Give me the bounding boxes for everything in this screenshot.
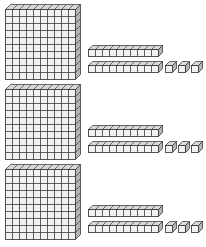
unit-cube-block[interactable] — [191, 221, 204, 234]
unit-cube-block[interactable] — [165, 61, 178, 74]
unit-cube-block[interactable] — [165, 141, 178, 154]
ten-rod-block[interactable] — [88, 45, 164, 58]
unit-cube-block[interactable] — [178, 141, 191, 154]
unit-cube-block[interactable] — [191, 141, 204, 154]
base-ten-blocks-canvas: Base-ten blocks place value model 123123… — [0, 0, 206, 247]
ten-rod-block[interactable] — [88, 61, 164, 74]
unit-cube-block[interactable] — [165, 221, 178, 234]
unit-cube-block[interactable] — [178, 221, 191, 234]
hundred-flat-block[interactable] — [5, 164, 82, 241]
ten-rod-block[interactable] — [88, 221, 164, 234]
hundred-flat-block[interactable] — [5, 4, 82, 81]
ten-rod-block[interactable] — [88, 141, 164, 154]
block-row: 123 — [0, 84, 206, 164]
unit-cube-block[interactable] — [191, 61, 204, 74]
ten-rod-block[interactable] — [88, 125, 164, 138]
block-row: 123 — [0, 164, 206, 244]
block-row: 123 — [0, 4, 206, 84]
ten-rod-block[interactable] — [88, 205, 164, 218]
unit-cube-block[interactable] — [178, 61, 191, 74]
hundred-flat-block[interactable] — [5, 84, 82, 161]
